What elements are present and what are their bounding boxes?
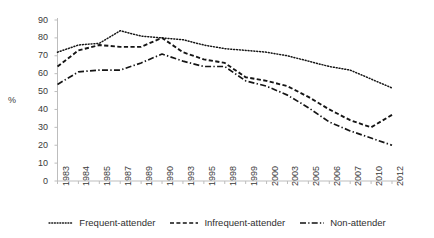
chart-legend: Frequent-attender Infrequent-attender No… [0, 218, 434, 228]
legend-label-frequent-attender: Frequent-attender [79, 218, 155, 228]
legend-label-infrequent-attender: Infrequent-attender [204, 218, 285, 228]
series-line-non-attender [58, 54, 393, 145]
line-chart: % 0102030405060708090 198319841985198719… [0, 0, 434, 238]
legend-item-frequent-attender: Frequent-attender [48, 218, 155, 228]
legend-swatch-dashdot-icon [299, 219, 325, 227]
axis-lines [58, 18, 399, 181]
series-line-infrequent-attender [58, 38, 393, 127]
plot-area [0, 0, 434, 238]
data-series-group [58, 31, 393, 145]
legend-item-infrequent-attender: Infrequent-attender [169, 218, 285, 228]
legend-item-non-attender: Non-attender [299, 218, 385, 228]
legend-swatch-dotted-icon [48, 219, 74, 227]
series-line-frequent-attender [58, 31, 393, 88]
legend-label-non-attender: Non-attender [330, 218, 385, 228]
legend-swatch-dashed-icon [169, 219, 199, 227]
